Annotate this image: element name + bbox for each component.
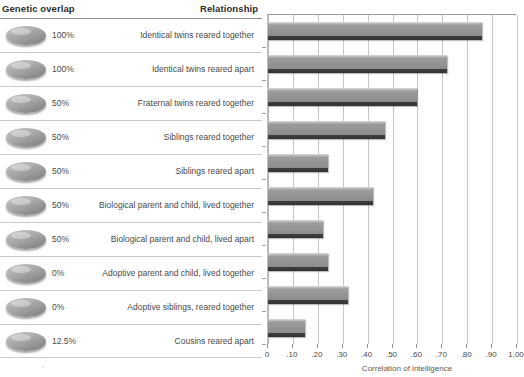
table-row: 100%Identical twins reared together [0, 18, 262, 52]
ellipse-chip-icon [6, 160, 50, 184]
ellipse-chip-icon [6, 24, 50, 48]
ellipse-chip-icon [6, 228, 50, 252]
ellipse-chip-shape [6, 230, 46, 249]
axis-tick-label: .60 [411, 350, 422, 359]
axis-tick-label: .40 [361, 350, 372, 359]
bar [268, 319, 305, 337]
axis-tick-label: .50 [386, 350, 397, 359]
ellipse-chip-shape [6, 264, 46, 283]
genetic-overlap-value: 50% [52, 132, 69, 142]
axis-tick [441, 344, 442, 348]
genetic-overlap-value: 100% [52, 30, 74, 40]
axis-tick-label: .20 [311, 350, 322, 359]
genetic-overlap-value: 12.5% [52, 336, 76, 346]
bar-row [268, 114, 516, 147]
table-row: 50%Siblings reared apart [0, 154, 262, 188]
bar [268, 187, 373, 205]
axis-tick-label: 1.00 [508, 350, 524, 359]
genetic-overlap-value: 0% [52, 268, 64, 278]
axis-tick-label: .10 [286, 350, 297, 359]
plot-area [267, 14, 516, 344]
table-row: 50%Biological parent and child, lived to… [0, 188, 262, 222]
bar-row [268, 81, 516, 114]
genetic-overlap-value: 50% [52, 200, 69, 210]
relationship-label: Biological parent and child, lived apart [111, 234, 254, 244]
table-row: 12.5%Cousins reared apart [0, 324, 262, 358]
ellipse-chip-shape [6, 162, 46, 181]
axis-tick [416, 344, 417, 348]
relationship-label: Adoptive parent and child, lived togethe… [102, 268, 254, 278]
relationship-label: Siblings reared apart [176, 166, 254, 176]
axis-tick [317, 344, 318, 348]
bar [268, 121, 385, 139]
bar-row [268, 279, 516, 312]
ellipse-chip-icon [6, 194, 50, 218]
axis-tick [342, 344, 343, 348]
axis-tick-label: .70 [436, 350, 447, 359]
axis-tick-label: 0 [265, 350, 269, 359]
table-row: 50%Siblings reared together [0, 120, 262, 154]
axis-tick [267, 344, 268, 348]
genetic-overlap-value: 50% [52, 98, 69, 108]
ellipse-chip-icon [6, 126, 50, 150]
row-tick [262, 311, 266, 312]
bar [268, 88, 417, 106]
bar [268, 253, 328, 271]
axis-tick [292, 344, 293, 348]
genetic-overlap-value: 50% [52, 234, 69, 244]
x-axis-title: Correlation of intelligence [307, 364, 507, 373]
bar-row [268, 312, 516, 345]
bar-row [268, 48, 516, 81]
ellipse-chip-icon [6, 58, 50, 82]
ellipse-chip-shape [6, 60, 46, 79]
genetic-overlap-value: 50% [52, 166, 69, 176]
ellipse-chip-icon [6, 296, 50, 320]
axis-tick [392, 344, 393, 348]
footnote-mark: . [42, 362, 44, 369]
bar-row [268, 147, 516, 180]
row-tick [262, 179, 266, 180]
relationship-label: Biological parent and child, lived toget… [99, 200, 254, 210]
ellipse-chip-shape [6, 128, 46, 147]
ellipse-chip-shape [6, 94, 46, 113]
row-tick [262, 146, 266, 147]
axis-tick [367, 344, 368, 348]
column-header-genetic-overlap: Genetic overlap [2, 3, 75, 14]
ellipse-chip-icon [6, 330, 50, 354]
table-row: 0%Adoptive siblings, reared together [0, 290, 262, 324]
bar [268, 22, 482, 40]
row-tick [262, 344, 266, 345]
axis-tick-label: .80 [461, 350, 472, 359]
gridline [517, 15, 518, 344]
ellipse-chip-shape [6, 196, 46, 215]
bar-row [268, 180, 516, 213]
bar [268, 286, 348, 304]
axis-tick [466, 344, 467, 348]
column-header-relationship: Relationship [200, 3, 258, 14]
table-row: 50%Biological parent and child, lived ap… [0, 222, 262, 256]
bar-row [268, 15, 516, 48]
axis-tick [491, 344, 492, 348]
correlation-bar-chart: Correlation of intelligence 0.10.20.30.4… [262, 0, 521, 377]
relationship-label: Siblings reared together [164, 132, 254, 142]
table-row: 50%Fraternal twins reared together [0, 86, 262, 120]
ellipse-chip-icon [6, 92, 50, 116]
relationship-table: 100%Identical twins reared together100%I… [0, 18, 262, 358]
row-tick [262, 278, 266, 279]
bar [268, 220, 323, 238]
axis-tick-label: .90 [486, 350, 497, 359]
bar [268, 55, 447, 73]
relationship-label: Adoptive siblings, reared together [127, 302, 254, 312]
relationship-label: Identical twins reared together [140, 30, 254, 40]
genetic-overlap-value: 0% [52, 302, 64, 312]
ellipse-chip-shape [6, 26, 46, 45]
x-axis: Correlation of intelligence 0.10.20.30.4… [267, 344, 516, 377]
relationship-label: Identical twins reared apart [152, 64, 254, 74]
ellipse-chip-shape [6, 332, 46, 351]
genetic-overlap-value: 100% [52, 64, 74, 74]
table-row: 100%Identical twins reared apart [0, 52, 262, 86]
row-tick [262, 212, 266, 213]
bar-row [268, 246, 516, 279]
ellipse-chip-icon [6, 262, 50, 286]
